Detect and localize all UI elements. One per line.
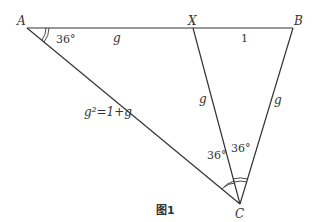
segment-label-AC: g²=1+g (84, 105, 132, 119)
vertex-label-A: A (16, 14, 26, 28)
figure-caption: 图1 (156, 204, 175, 217)
angle-arc-XCB-inner (234, 181, 247, 182)
segment-BC (240, 28, 293, 204)
segment-label-AX: g (113, 31, 121, 45)
vertex-label-B: B (293, 14, 303, 28)
segment-label-XC: g (199, 92, 207, 106)
segment-AC (27, 28, 240, 204)
golden-triangle-diagram: A X B C g 1 g g g²=1+g 36° 36° 36° 图1 (0, 0, 317, 222)
angle-arc-XCB-outer (233, 178, 248, 179)
segment-label-XB: 1 (241, 32, 248, 45)
segment-XC (193, 28, 240, 204)
angle-label-A: 36° (56, 33, 76, 46)
segment-label-BC: g (274, 93, 282, 107)
vertex-label-X: X (187, 14, 197, 28)
angle-label-ACX: 36° (207, 149, 227, 162)
vertex-label-C: C (235, 207, 244, 221)
angle-arc-A-inner (42, 28, 46, 40)
angle-label-XCB: 36° (231, 142, 251, 155)
